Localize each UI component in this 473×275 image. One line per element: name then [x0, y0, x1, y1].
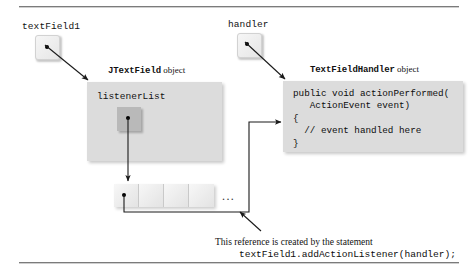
- listener-array-cell: [139, 184, 164, 207]
- reference-dot-icon: [126, 116, 130, 120]
- reference-dot-icon: [245, 42, 249, 46]
- listener-array-cell: [114, 184, 139, 207]
- diagram-canvas: textField1 handler JTextField object lis…: [0, 0, 473, 275]
- listener-array-cell: [189, 184, 214, 207]
- variable-label-handler: handler: [228, 19, 269, 30]
- reference-dot-icon: [45, 45, 49, 49]
- code-line: // event handled here: [293, 125, 463, 137]
- code-line: {: [293, 113, 463, 125]
- listener-array-ellipsis: ...: [222, 189, 235, 204]
- listenerlist-reference-box: [117, 107, 141, 131]
- textfieldhandler-object-box: public void actionPerformed( ActionEvent…: [283, 81, 463, 152]
- reference-box-textfield1: [35, 35, 60, 60]
- listener-array-cell: [164, 184, 189, 207]
- listener-array-box: [114, 184, 214, 207]
- reference-dot-icon: [122, 193, 126, 197]
- reference-box-handler: [237, 33, 262, 58]
- textfieldhandler-caption-type: TextFieldHandler: [310, 65, 395, 75]
- code-line: ActionEvent event): [293, 100, 463, 112]
- jtextfield-object-caption: JTextField object: [108, 65, 185, 76]
- code-line: }: [293, 138, 463, 150]
- variable-label-textfield1: textField1: [22, 21, 80, 32]
- note-leader-line: [240, 212, 261, 231]
- textfieldhandler-object-caption: TextFieldHandler object: [310, 64, 419, 75]
- code-line: public void actionPerformed(: [293, 88, 463, 100]
- note-line-1: This reference is created by the stateme…: [215, 237, 373, 247]
- jtextfield-caption-type: JTextField: [108, 66, 161, 76]
- jtextfield-caption-suffix: object: [161, 65, 185, 75]
- bottom-divider-rule: [19, 262, 459, 264]
- top-divider-rule: [19, 6, 459, 8]
- textfieldhandler-caption-suffix: object: [395, 64, 419, 74]
- listenerlist-field-label: listenerList: [97, 91, 165, 102]
- note-line-2: textField1.addActionListener(handler);: [239, 249, 456, 260]
